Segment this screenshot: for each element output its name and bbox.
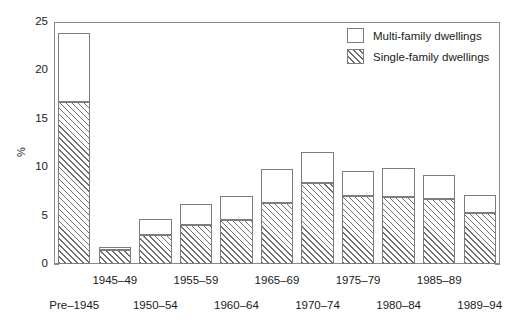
bar-stack bbox=[261, 169, 293, 264]
bar-stack bbox=[58, 33, 90, 264]
bar-segment-multi-family bbox=[58, 33, 90, 103]
bar-segment-single-family bbox=[464, 213, 496, 264]
x-tick-label: 1989–94 bbox=[439, 299, 515, 311]
legend-item-single-family: Single-family dwellings bbox=[347, 48, 493, 65]
bar-segment-multi-family bbox=[342, 171, 374, 196]
y-tick-label: 15 bbox=[20, 113, 48, 124]
bar-stack bbox=[220, 196, 252, 264]
y-tick-label: 20 bbox=[20, 64, 48, 75]
x-tick-label: 1950–54 bbox=[114, 299, 196, 311]
bar-stack bbox=[423, 175, 455, 264]
bar-segment-single-family bbox=[342, 196, 374, 264]
chart-legend: Multi-family dwellings Single-family dwe… bbox=[347, 27, 493, 69]
legend-swatch-multi-family-icon bbox=[347, 28, 364, 43]
bar-stack bbox=[464, 195, 496, 264]
bar-segment-multi-family bbox=[139, 219, 171, 235]
x-tick-label: 1965–69 bbox=[236, 274, 318, 286]
bar-segment-single-family bbox=[382, 197, 414, 264]
bar-segment-single-family bbox=[58, 102, 90, 264]
bar-stack bbox=[139, 219, 171, 264]
y-axis-title: % bbox=[15, 147, 27, 157]
bar-segment-single-family bbox=[423, 199, 455, 264]
bar-segment-multi-family bbox=[261, 169, 293, 203]
bar-segment-multi-family bbox=[464, 195, 496, 212]
x-tick-label: 1980–84 bbox=[358, 299, 440, 311]
bar-stack bbox=[301, 152, 333, 264]
legend-swatch-single-family-icon bbox=[347, 49, 364, 64]
x-tick-label: 1960–64 bbox=[195, 299, 277, 311]
x-tick-label: 1955–59 bbox=[155, 274, 237, 286]
x-tick-label: 1970–74 bbox=[277, 299, 359, 311]
y-tick-label: 10 bbox=[20, 161, 48, 172]
bar-segment-multi-family bbox=[423, 175, 455, 199]
legend-item-multi-family: Multi-family dwellings bbox=[347, 27, 493, 44]
legend-label-multi-family: Multi-family dwellings bbox=[373, 30, 482, 42]
bar-segment-single-family bbox=[180, 225, 212, 264]
bar-segment-single-family bbox=[99, 250, 131, 264]
bar-segment-multi-family bbox=[99, 247, 131, 251]
stacked-bar-chart-figure: % 0510152025 Pre–19451945–491950–541955–… bbox=[0, 0, 515, 322]
bar-segment-single-family bbox=[220, 220, 252, 264]
bar-segment-multi-family bbox=[220, 196, 252, 220]
legend-label-single-family: Single-family dwellings bbox=[373, 51, 489, 63]
x-tick-label: Pre–1945 bbox=[33, 299, 115, 311]
bar-segment-multi-family bbox=[180, 204, 212, 225]
x-tick-label: 1975–79 bbox=[317, 274, 399, 286]
bar-segment-multi-family bbox=[382, 168, 414, 197]
bar-stack bbox=[342, 171, 374, 264]
x-tick-label: 1985–89 bbox=[398, 274, 480, 286]
bar-stack bbox=[99, 247, 131, 264]
bar-segment-multi-family bbox=[301, 152, 333, 183]
bar-segment-single-family bbox=[139, 235, 171, 264]
bar-segment-single-family bbox=[261, 203, 293, 264]
x-tick-label: 1945–49 bbox=[74, 274, 156, 286]
bar-stack bbox=[180, 204, 212, 264]
bar-segment-single-family bbox=[301, 183, 333, 264]
y-tick-label: 25 bbox=[20, 16, 48, 27]
bar-stack bbox=[382, 168, 414, 264]
x-axis-labels: Pre–19451945–491950–541955–591960–641965… bbox=[0, 264, 515, 322]
y-tick-label: 5 bbox=[20, 210, 48, 221]
